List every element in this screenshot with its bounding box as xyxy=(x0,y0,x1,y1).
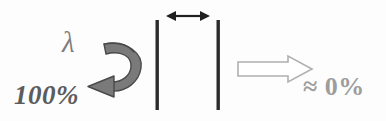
right-barrier xyxy=(217,20,220,110)
hollow-transmission-arrow xyxy=(238,56,312,82)
left-barrier xyxy=(156,20,159,110)
transmitted-percentage-label: ≈ 0% xyxy=(303,74,365,100)
light-reflection-barrier-diagram: λ 100% ≈ 0% xyxy=(0,0,386,121)
reflected-percentage-label: 100% xyxy=(14,82,79,109)
curved-reflection-arrow xyxy=(88,43,141,97)
gap-double-headed-arrow xyxy=(166,11,210,21)
wavelength-lambda-label: λ xyxy=(62,28,75,57)
